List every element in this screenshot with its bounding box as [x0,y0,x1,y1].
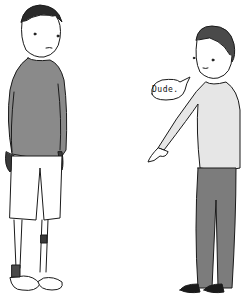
right-man [148,26,240,293]
cartoon-illustration: Dude. [0,0,241,301]
left-man [6,5,67,290]
speech-bubble-text: Dude. [152,85,179,94]
illustration-canvas [0,0,241,301]
